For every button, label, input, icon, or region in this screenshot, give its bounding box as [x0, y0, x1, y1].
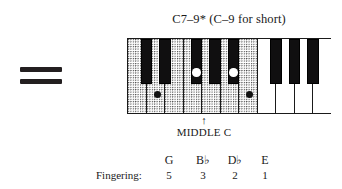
middle-c-arrow-icon: ↑ [196, 115, 212, 126]
note-marker-dot [246, 91, 253, 98]
fingering-label: Fingering: [96, 168, 142, 182]
fingering-column: B♭3 [192, 153, 214, 182]
black-key[interactable] [191, 39, 203, 84]
equals-sign [20, 66, 62, 88]
equals-bar-bottom [20, 79, 62, 84]
fingering-number: 3 [192, 168, 214, 182]
fingering-note-name: B♭ [192, 153, 214, 168]
fingering-column: E1 [254, 153, 276, 182]
fingering-block: Fingering: G5B♭3D♭2E1 [96, 153, 276, 187]
black-key[interactable] [209, 39, 221, 84]
chord-title: C7–9* (C–9 for short) [127, 12, 331, 27]
black-key[interactable] [159, 39, 171, 84]
note-marker-dot [154, 91, 161, 98]
note-marker-dot [192, 68, 201, 77]
chord-diagram-figure: C7–9* (C–9 for short) ↑ MIDDLE C Fingeri… [0, 0, 342, 189]
black-key[interactable] [307, 39, 319, 84]
middle-c-label: MIDDLE C [154, 126, 254, 139]
fingering-number: 1 [254, 168, 276, 182]
flat-symbol-icon: ♭ [204, 153, 210, 167]
fingering-number: 5 [158, 168, 180, 182]
note-marker-dot [229, 68, 238, 77]
white-key[interactable] [239, 39, 258, 113]
black-key[interactable] [270, 39, 282, 84]
fingering-number: 2 [224, 168, 246, 182]
fingering-note-name: G [158, 153, 180, 168]
black-key[interactable] [228, 39, 240, 84]
fingering-note-name: E [254, 153, 276, 168]
fingering-note-name: D♭ [224, 153, 246, 168]
black-key[interactable] [141, 39, 153, 84]
piano-keyboard [127, 38, 331, 114]
flat-symbol-icon: ♭ [236, 153, 242, 167]
fingering-column: D♭2 [224, 153, 246, 182]
equals-bar-top [20, 67, 62, 72]
fingering-column: G5 [158, 153, 180, 182]
black-key[interactable] [289, 39, 301, 84]
